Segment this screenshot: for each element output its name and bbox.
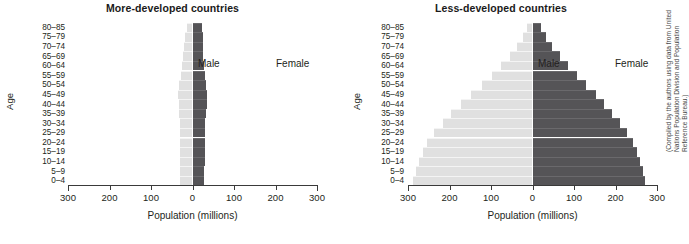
series-label-female-left: Female (276, 58, 309, 69)
bar-female (193, 128, 205, 137)
age-row (408, 175, 657, 185)
age-row (68, 118, 317, 128)
x-axis-tick (68, 185, 69, 191)
bar-male (179, 80, 192, 89)
y-tick-label: 10–14 (381, 157, 404, 166)
bar-female (533, 90, 596, 99)
age-row (408, 118, 657, 128)
y-tick-label: 50–54 (42, 80, 65, 89)
y-tick-label: 55–59 (42, 70, 65, 79)
bar-female (193, 157, 205, 166)
y-tick-label: 50–54 (381, 80, 404, 89)
age-row (408, 22, 657, 32)
x-tick-label: 200 (268, 192, 284, 203)
age-row (68, 147, 317, 157)
y-tick-label: 15–19 (381, 147, 404, 156)
x-axis-tick (317, 185, 318, 191)
bar-male (182, 61, 193, 70)
y-tick-label: 30–34 (381, 118, 404, 127)
y-tick-label: 25–29 (42, 128, 65, 137)
x-axis-tick (574, 185, 575, 190)
series-label-male-right: Male (538, 58, 560, 69)
bar-male (510, 51, 533, 60)
age-row (408, 137, 657, 147)
age-row (68, 70, 317, 80)
panel-title-more-developed: More-developed countries (0, 2, 345, 14)
bar-female (193, 138, 205, 147)
bar-female (193, 147, 205, 156)
series-label-male-left: Male (198, 58, 220, 69)
bar-male (419, 157, 533, 166)
bar-male (180, 166, 192, 175)
bar-female (193, 176, 205, 185)
y-tick-label: 5–9 (51, 166, 65, 175)
x-tick-label: 300 (309, 192, 325, 203)
bar-female (533, 118, 620, 127)
bar-female (533, 99, 604, 108)
bar-female (193, 80, 207, 89)
y-tick-label: 65–69 (381, 51, 404, 60)
y-tick-label: 20–24 (42, 137, 65, 146)
y-tick-label: 20–24 (381, 137, 404, 146)
x-tick-label: 200 (608, 192, 624, 203)
x-tick-label: 0 (530, 192, 535, 203)
x-tick-label: 300 (60, 192, 76, 203)
bar-female (193, 71, 205, 80)
bar-male (492, 71, 533, 80)
panel-more-developed: More-developed countries Age Male Female… (0, 0, 345, 244)
x-axis-tick (616, 185, 617, 190)
bar-male (413, 176, 532, 185)
y-tick-label: 45–49 (42, 89, 65, 98)
bar-female (533, 80, 587, 89)
y-tick-label: 60–64 (381, 61, 404, 70)
age-row (408, 32, 657, 42)
population-pyramid-figure: More-developed countries Age Male Female… (0, 0, 689, 244)
age-row (68, 22, 317, 32)
bar-female (193, 32, 203, 41)
y-axis-title-left: Age (4, 87, 15, 117)
age-row (68, 41, 317, 51)
panel-title-less-developed: Less-developed countries (345, 2, 657, 14)
y-tick-label: 40–44 (381, 99, 404, 108)
age-row (68, 108, 317, 118)
bar-male (180, 118, 193, 127)
age-row (408, 80, 657, 90)
bar-male (185, 32, 192, 41)
y-tick-label: 75–79 (42, 32, 65, 41)
bar-female (533, 157, 641, 166)
bar-male (178, 90, 192, 99)
bar-male (180, 128, 193, 137)
bar-male (482, 80, 533, 89)
age-row (408, 127, 657, 137)
y-tick-label: 70–74 (381, 41, 404, 50)
x-axis-tick (657, 185, 658, 191)
bar-male (461, 99, 532, 108)
x-axis-tick (151, 185, 152, 190)
bar-male (183, 51, 192, 60)
x-axis-title-right: Population (millions) (408, 210, 657, 221)
bar-female (533, 42, 553, 51)
plot-area-more-developed: Male Female (68, 22, 317, 185)
bar-male (179, 109, 192, 118)
y-tick-label: 25–29 (381, 128, 404, 137)
bar-male (523, 32, 533, 41)
x-tick-label: 0 (190, 192, 195, 203)
age-row (68, 166, 317, 176)
panel-less-developed: Less-developed countries Age Male Female… (345, 0, 657, 244)
bar-female (533, 109, 613, 118)
bar-male (443, 118, 533, 127)
x-tick-label: 100 (226, 192, 242, 203)
age-row (68, 99, 317, 109)
bar-male (180, 147, 192, 156)
bar-female (533, 147, 638, 156)
bar-female (193, 90, 208, 99)
y-tick-label: 40–44 (42, 99, 65, 108)
x-axis-tick (234, 185, 235, 190)
age-row (68, 156, 317, 166)
x-tick-label: 300 (400, 192, 416, 203)
bar-male (423, 147, 533, 156)
bar-male (181, 71, 193, 80)
x-tick-label: 100 (143, 192, 159, 203)
age-row (68, 127, 317, 137)
y-tick-label: 0–4 (390, 176, 404, 185)
